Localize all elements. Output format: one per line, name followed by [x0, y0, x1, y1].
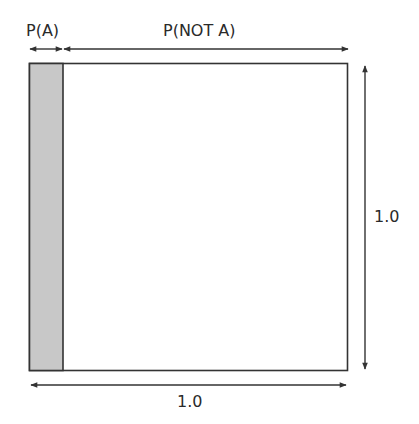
height-label: 1.0 — [374, 208, 399, 226]
diagram-canvas — [0, 0, 419, 424]
p-a-label: P(A) — [26, 22, 59, 40]
width-label: 1.0 — [177, 393, 202, 411]
p-not-a-label: P(NOT A) — [163, 22, 236, 40]
probability-square-diagram: P(A) P(NOT A) 1.0 1.0 — [0, 0, 419, 424]
unit-square — [30, 64, 348, 371]
shaded-region-a — [30, 64, 64, 371]
